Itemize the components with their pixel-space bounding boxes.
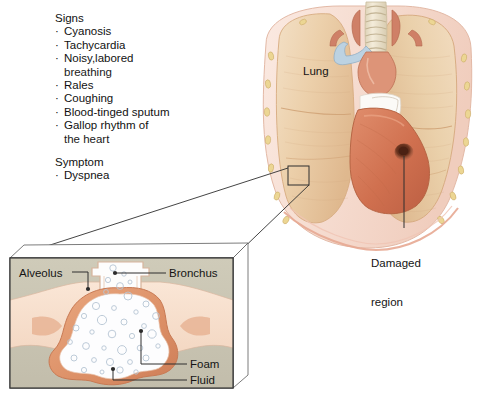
bullet-icon: · — [55, 25, 64, 38]
hilum-structure — [358, 52, 396, 96]
lung-annotation-label: Lung — [303, 65, 329, 78]
bullet-icon: · — [55, 92, 64, 105]
bullet-icon: · — [55, 169, 64, 182]
sign-label-continued: the heart — [55, 133, 225, 146]
damaged-region-core — [399, 147, 409, 156]
sign-label: Blood-tinged sputum — [64, 106, 225, 119]
alveolus-annotation-label: Alveolus — [19, 267, 62, 280]
bullet-icon: · — [55, 79, 64, 92]
sign-label-continued: breathing — [55, 66, 225, 79]
section-spacer — [55, 146, 225, 156]
bullet-icon: · — [55, 106, 64, 119]
sign-item-gallop-rhythm: · Gallop rhythm of — [55, 119, 225, 132]
sign-item-blood-tinged-sputum: · Blood-tinged sputum — [55, 106, 225, 119]
pulmonary-edema-figure: Signs · Cyanosis · Tachycardia · Noisy,l… — [0, 0, 488, 400]
bronchus-annotation-label: Bronchus — [169, 267, 218, 280]
foam-leader-dot — [139, 329, 143, 333]
sign-label: Noisy,labored — [64, 52, 225, 65]
sign-item-rales: · Rales — [55, 79, 225, 92]
fluid-leader-dot — [111, 367, 115, 371]
sign-item-noisy-labored-breathing: · Noisy,labored — [55, 52, 225, 65]
trachea — [365, 2, 387, 52]
panel-perspective-right — [233, 243, 248, 388]
damaged-region-line-1: Damaged — [371, 257, 421, 270]
bronchus-leader-dot — [113, 271, 117, 275]
damaged-region-line-2: region — [371, 296, 421, 309]
damaged-region-annotation: Damaged region — [371, 231, 421, 335]
sign-label: Coughing — [64, 92, 225, 105]
foam-annotation-label: Foam — [190, 358, 219, 371]
panel-perspective-top — [10, 243, 248, 258]
sign-label: Cyanosis — [64, 25, 225, 38]
sign-item-tachycardia: · Tachycardia — [55, 39, 225, 52]
clinical-findings-panel: Signs · Cyanosis · Tachycardia · Noisy,l… — [55, 12, 225, 183]
fluid-annotation-label: Fluid — [190, 374, 215, 387]
sign-label: Tachycardia — [64, 39, 225, 52]
sign-item-cyanosis: · Cyanosis — [55, 25, 225, 38]
sign-label: Rales — [64, 79, 225, 92]
bullet-icon: · — [55, 119, 64, 132]
sign-label: Gallop rhythm of — [64, 119, 225, 132]
symptom-heading: Symptom — [55, 156, 225, 169]
symptom-item-dyspnea: · Dyspnea — [55, 169, 225, 182]
bullet-icon: · — [55, 52, 64, 65]
sign-item-coughing: · Coughing — [55, 92, 225, 105]
bullet-icon: · — [55, 39, 64, 52]
thorax-illustration — [263, 2, 471, 250]
alveolus-leader-dot — [86, 287, 90, 291]
signs-heading: Signs — [55, 12, 225, 25]
symptom-label: Dyspnea — [64, 169, 225, 182]
